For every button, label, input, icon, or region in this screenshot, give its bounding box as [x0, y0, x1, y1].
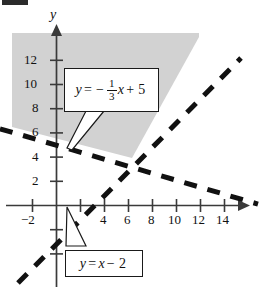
line-1-callout: y = − 1 3 x + 5	[64, 68, 159, 112]
x-tick-label-12: 12	[192, 213, 205, 226]
x-tick-label-6: 6	[124, 213, 131, 226]
eq1-plus: +	[124, 82, 136, 98]
eq2-constant: 2	[117, 256, 128, 272]
eq1-fraction: 1 3	[107, 78, 117, 101]
shaded-solution-region-upper	[12, 33, 199, 36]
y-tick-label-2: 2	[32, 174, 39, 187]
y-tick-label-6: 6	[32, 125, 39, 138]
eq1-sign: −	[94, 82, 106, 98]
eq1-denominator: 3	[107, 90, 117, 102]
y-axis-label: y	[50, 8, 56, 22]
callout-2-pointer-tail	[66, 207, 86, 246]
line-1-equation: y = − 1 3 x + 5	[75, 78, 147, 101]
eq2-minus: −	[105, 256, 117, 272]
x-tick-label-4: 4	[100, 213, 107, 226]
graph-figure: y 12 10 8 6 4 2 −2 4 6 8 10 12 14 y = − …	[0, 0, 260, 287]
eq1-numerator: 1	[107, 78, 117, 89]
eq1-equals: =	[82, 82, 94, 98]
line-2-callout: y = x − 2	[65, 250, 143, 277]
x-tick-label-neg2: −2	[21, 213, 35, 226]
y-tick-label-10: 10	[24, 77, 37, 90]
y-tick-label-8: 8	[32, 101, 39, 114]
line-2-equation: y = x − 2	[80, 256, 128, 272]
x-tick-label-10: 10	[168, 213, 181, 226]
coordinate-plane-svg	[0, 0, 260, 287]
x-tick-label-8: 8	[148, 213, 155, 226]
eq2-equals: =	[86, 256, 98, 272]
eq1-constant: 5	[136, 82, 147, 98]
y-tick-label-4: 4	[32, 150, 39, 163]
x-tick-label-14: 14	[216, 213, 229, 226]
y-tick-label-12: 12	[24, 53, 37, 66]
